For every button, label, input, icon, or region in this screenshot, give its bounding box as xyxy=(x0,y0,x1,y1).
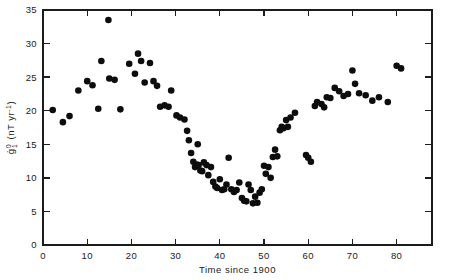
data-point xyxy=(345,91,352,98)
data-point xyxy=(369,97,376,104)
data-point xyxy=(154,83,161,90)
x-axis-ticks xyxy=(43,10,397,245)
x-axis-title-text: Time since 1900 xyxy=(199,264,276,275)
y-axis-ticks xyxy=(43,10,432,245)
data-point xyxy=(285,124,292,131)
x-tick-label: 0 xyxy=(40,250,46,261)
data-point xyxy=(89,82,96,89)
y-axis-title-group: ġ01 (nT yr-1) xyxy=(5,101,19,154)
data-point xyxy=(147,60,154,67)
data-point xyxy=(132,70,139,77)
data-point xyxy=(265,164,272,171)
data-point xyxy=(84,78,91,85)
x-axis-title: Time since 1900 xyxy=(199,264,276,275)
y-tick-label: 25 xyxy=(26,72,37,83)
data-point xyxy=(321,104,328,111)
x-tick-label: 60 xyxy=(303,250,314,261)
data-point xyxy=(208,164,215,171)
data-point xyxy=(272,146,279,153)
data-point xyxy=(259,186,266,193)
data-point xyxy=(105,17,112,24)
y-tick-label: 5 xyxy=(31,206,37,217)
plot-frame xyxy=(43,10,432,245)
data-point xyxy=(49,107,56,114)
data-points-layer xyxy=(49,17,404,207)
data-point xyxy=(194,141,201,148)
x-tick-label: 40 xyxy=(214,250,225,261)
x-tick-label: 30 xyxy=(170,250,181,261)
data-point xyxy=(356,90,363,97)
data-point xyxy=(223,181,230,188)
data-point xyxy=(117,106,124,113)
x-tick-label: 80 xyxy=(391,250,402,261)
data-point xyxy=(308,158,315,165)
data-point xyxy=(141,79,148,86)
data-point xyxy=(205,172,212,179)
y-axis-title-text: ġ01 (nT yr-1) xyxy=(5,101,19,154)
y-tick-label: 0 xyxy=(31,239,37,250)
x-tick-label: 10 xyxy=(82,250,93,261)
data-point xyxy=(60,119,67,126)
data-point xyxy=(165,103,172,110)
data-point xyxy=(135,50,142,57)
data-point xyxy=(398,65,405,72)
data-point xyxy=(186,137,193,144)
y-tick-label: 10 xyxy=(26,172,37,183)
y-tick-label: 20 xyxy=(26,105,37,116)
data-point xyxy=(217,176,224,183)
data-point xyxy=(243,198,250,205)
chart-canvas: 01020304050607080 05101520253035 Time si… xyxy=(0,0,450,280)
y-tick-label: 30 xyxy=(26,38,37,49)
data-point xyxy=(168,87,175,94)
y-axis-title: ġ01 (nT yr-1) xyxy=(5,101,19,154)
data-point xyxy=(184,128,191,135)
data-point xyxy=(267,175,274,182)
y-tick-label: 15 xyxy=(26,139,37,150)
data-point xyxy=(126,60,133,67)
data-point xyxy=(362,92,369,99)
data-point xyxy=(75,87,82,94)
x-tick-label: 70 xyxy=(347,250,358,261)
data-point xyxy=(236,179,243,186)
data-point xyxy=(199,168,206,175)
data-point xyxy=(327,95,334,102)
plot-border xyxy=(43,10,432,245)
data-point xyxy=(111,77,118,84)
data-point xyxy=(181,116,188,123)
data-point xyxy=(66,113,73,120)
data-point xyxy=(233,187,240,194)
y-axis-tick-labels: 05101520253035 xyxy=(26,4,37,250)
x-axis-tick-labels: 01020304050607080 xyxy=(40,250,402,261)
data-point xyxy=(98,58,105,65)
data-point xyxy=(95,105,102,112)
data-point xyxy=(247,187,254,194)
data-point xyxy=(188,150,195,157)
x-tick-label: 20 xyxy=(126,250,137,261)
data-point xyxy=(138,58,145,65)
data-point xyxy=(352,81,359,88)
data-point xyxy=(274,153,281,160)
data-point xyxy=(254,199,261,206)
y-tick-label: 35 xyxy=(26,4,37,15)
data-point xyxy=(225,154,232,161)
data-point xyxy=(385,99,392,106)
x-tick-label: 50 xyxy=(258,250,269,261)
data-point xyxy=(376,94,383,101)
data-point xyxy=(349,67,356,74)
scatter-chart-figure: 01020304050607080 05101520253035 Time si… xyxy=(0,0,450,280)
data-point xyxy=(292,109,299,116)
